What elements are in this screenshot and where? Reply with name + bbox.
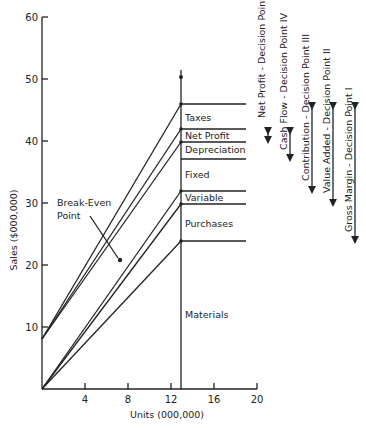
x-tick-labels: 4 8 12 16 20 [82,394,264,405]
svg-text:60: 60 [25,12,38,23]
y-tick-labels: 10 20 30 40 50 60 [25,12,38,333]
break-even-label-line2: Point [57,210,81,221]
svg-text:30: 30 [25,198,38,209]
y-axis-label: Sales ($000,000) [8,189,19,270]
svg-text:12: 12 [165,394,178,405]
svg-text:Value Added - Decision Point I: Value Added - Decision Point II [321,48,332,193]
svg-text:Break-Even: Break-Even [57,197,111,208]
svg-text:20: 20 [251,394,264,405]
x-axis-label: Units (000,000) [130,409,204,420]
svg-text:10: 10 [25,322,38,333]
svg-text:Gross Margin - Decision Point: Gross Margin - Decision Point I [343,87,354,232]
svg-text:Variable: Variable [185,192,224,203]
svg-text:Contribution - Decision Point: Contribution - Decision Point III [300,34,311,181]
cost-lines [42,104,181,389]
svg-text:16: 16 [208,394,221,405]
svg-text:Net Profit - Decision Point V: Net Profit - Decision Point V [256,0,267,118]
svg-text:Depreciation: Depreciation [185,144,246,155]
svg-text:Fixed: Fixed [185,169,210,180]
svg-text:50: 50 [25,74,38,85]
svg-text:20: 20 [25,260,38,271]
level-labels: Taxes Net Profit Depreciation Fixed Vari… [184,112,246,320]
svg-text:8: 8 [125,394,131,405]
decision-point-labels: Net Profit - Decision Point V Cash Flow … [256,0,354,232]
break-even-annotation: Break-Even Point [57,197,122,262]
svg-text:Materials: Materials [185,309,229,320]
svg-text:Net Profit: Net Profit [185,130,230,141]
svg-text:Purchases: Purchases [185,218,233,229]
svg-text:Taxes: Taxes [184,112,211,123]
svg-text:4: 4 [82,394,88,405]
break-even-chart: 10 20 30 40 50 60 4 8 12 16 20 Units (00… [0,0,366,428]
svg-text:Cash Flow - Decision Point IV: Cash Flow - Decision Point IV [278,13,289,150]
svg-text:40: 40 [25,136,38,147]
